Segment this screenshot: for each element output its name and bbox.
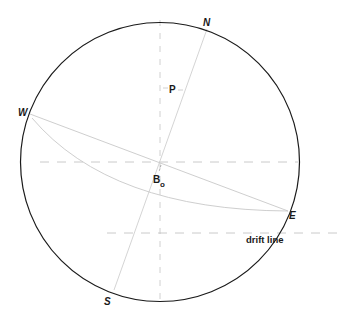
label-west: W	[18, 107, 29, 118]
label-pole: P	[169, 84, 176, 95]
label-south: S	[104, 296, 111, 307]
diagram-canvas: N S W E P B o drift line	[0, 0, 340, 321]
label-east: E	[289, 210, 296, 221]
north-south-line	[114, 29, 207, 290]
label-b-subscript: o	[160, 180, 165, 189]
label-north: N	[203, 17, 211, 28]
west-east-line	[30, 114, 288, 211]
label-drift-line: drift line	[246, 234, 283, 245]
